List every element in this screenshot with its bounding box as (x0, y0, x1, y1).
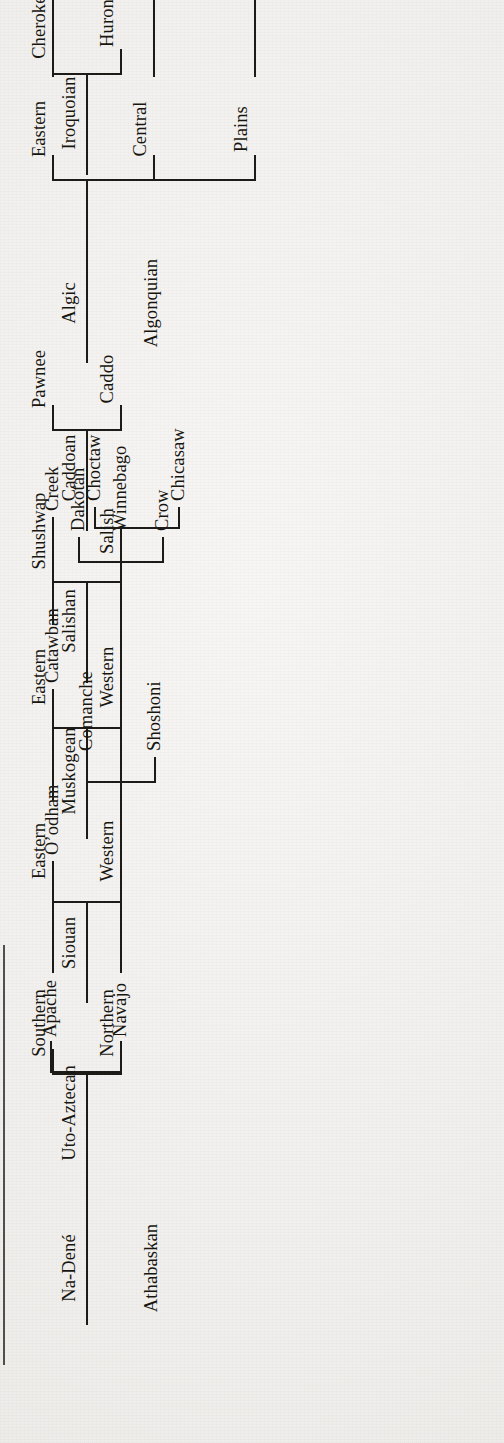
branch-oodham (52, 861, 54, 973)
branch-creek (52, 517, 54, 625)
branch-comanche (86, 757, 88, 783)
leaf-label-chicasaw: Chicasaw (169, 428, 188, 501)
branch-shoshoni (154, 757, 156, 783)
branch-alg-eastern (52, 0, 54, 77)
branch-crow (162, 537, 164, 563)
leaf-label-shoshoni: Shoshoni (145, 681, 164, 751)
leaf-label-choctaw: Choctaw (85, 435, 104, 501)
connector-musk-western-split (94, 527, 180, 529)
branch-chicasaw (178, 507, 180, 529)
language-family-tree-deep-branches: O’odham Comanche Shoshoni Catawban Dakot… (0, 0, 504, 1443)
rotated-figure-container: Na-Dené Athabaskan Apache Navajo Uto-Azt… (0, 0, 504, 1443)
scanned-page: Na-Dené Athabaskan Apache Navajo Uto-Azt… (0, 0, 504, 1443)
branch-choctaw (94, 507, 96, 529)
branch-alg-central (153, 0, 155, 77)
leaf-label-comanche: Comanche (77, 671, 96, 751)
branch-dakotan (78, 537, 80, 563)
leaf-label-winnebago: Winnebago (111, 446, 130, 531)
branch-catawban (52, 689, 54, 801)
leaf-label-creek: Creek (43, 466, 62, 511)
branch-alg-plains (254, 0, 256, 77)
branch-musk-western (120, 529, 122, 625)
branch-uto-northern (120, 783, 122, 973)
